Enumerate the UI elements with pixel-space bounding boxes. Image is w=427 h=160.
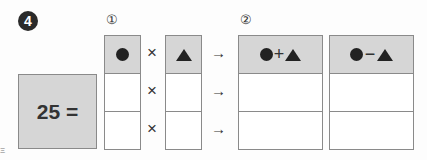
problem-number-badge: 4: [18, 11, 38, 31]
triangle-icon: [285, 49, 301, 61]
times-sign: ×: [147, 81, 157, 101]
equation-text: 25 =: [37, 100, 78, 124]
arrow-icon: →: [211, 120, 226, 137]
times-sign: ×: [147, 43, 157, 63]
input-sum-row-2[interactable]: [238, 111, 323, 150]
input-circle-row-1[interactable]: [104, 73, 141, 112]
arrow-icon: →: [211, 82, 226, 99]
step-1-label: ①: [106, 12, 118, 27]
circle-icon: [116, 48, 129, 61]
input-circle-row-2[interactable]: [104, 111, 141, 150]
step-2-label: ②: [240, 12, 252, 27]
triangle-icon: [377, 49, 393, 61]
header-sum: +: [238, 35, 323, 74]
input-difference-row-2[interactable]: [329, 111, 414, 150]
equation-box: 25 =: [18, 74, 97, 149]
plus-sign: +: [274, 44, 285, 65]
circle-icon: [350, 48, 363, 61]
minus-sign: −: [365, 44, 376, 65]
header-circle: [104, 35, 141, 74]
input-triangle-row-2[interactable]: [165, 111, 202, 150]
input-sum-row-1[interactable]: [238, 73, 323, 112]
header-triangle: [165, 35, 202, 74]
triangle-icon: [176, 49, 192, 61]
arrow-icon: →: [211, 44, 226, 61]
input-difference-row-1[interactable]: [329, 73, 414, 112]
times-sign: ×: [147, 119, 157, 139]
header-difference: −: [329, 35, 414, 74]
input-triangle-row-1[interactable]: [165, 73, 202, 112]
edge-fragment: Ξ: [0, 146, 5, 155]
circle-icon: [260, 48, 273, 61]
